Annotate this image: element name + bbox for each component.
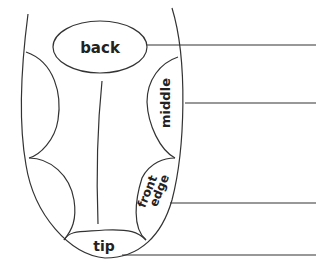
middle-label: middle — [158, 78, 173, 128]
left-upper-region — [26, 52, 59, 158]
tongue-diagram: back middle front edge tip — [0, 0, 334, 270]
tip-label: tip — [93, 238, 115, 254]
median-groove — [97, 81, 102, 224]
back-label: back — [80, 39, 121, 57]
tongue-diagram-svg: back middle front edge tip — [0, 0, 334, 270]
